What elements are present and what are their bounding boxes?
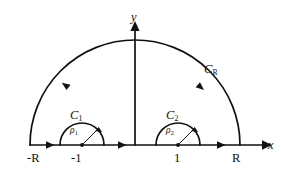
rho-label-right-subscript: 2 xyxy=(171,129,174,136)
rho-left-radius-line xyxy=(82,129,98,145)
curve-label-CR-subscript: R xyxy=(212,68,217,77)
rho-right-radius-line xyxy=(178,129,194,145)
rho-label-right-base: ρ xyxy=(166,125,171,135)
x-axis-label: x xyxy=(268,139,274,152)
contour-diagram: y x CR C1 C2 ρ1 ρ2 -R -1 1 R xyxy=(0,0,281,176)
tick-label-minus-1: -1 xyxy=(71,152,81,165)
large-arc-arrowhead-right xyxy=(196,82,204,90)
rho-label-right: ρ2 xyxy=(166,126,174,136)
contour-graphic xyxy=(0,0,281,176)
curve-label-C1: C1 xyxy=(70,109,82,122)
small-semicircle-right-path xyxy=(156,123,200,145)
large-arc-arrowhead-left xyxy=(62,83,71,90)
tick-label-plus-R: R xyxy=(232,152,240,165)
direction-arrow-left-segment xyxy=(46,141,55,149)
tick-label-plus-1: 1 xyxy=(174,152,180,165)
direction-arrow-middle-segment xyxy=(118,141,127,149)
tick-label-minus-R: -R xyxy=(27,152,40,165)
direction-arrow-right-segment xyxy=(217,141,226,149)
y-axis-label: y xyxy=(131,11,137,24)
rho-label-left: ρ1 xyxy=(70,126,78,136)
curve-label-CR: CR xyxy=(204,63,218,76)
curve-label-C2-subscript: 2 xyxy=(174,114,178,123)
rho-label-left-base: ρ xyxy=(70,125,75,135)
center-dot-right xyxy=(176,143,180,147)
center-dot-left xyxy=(80,143,84,147)
small-semicircle-left-path xyxy=(60,123,104,145)
curve-label-C1-subscript: 1 xyxy=(78,114,82,123)
curve-label-C2: C2 xyxy=(166,109,178,122)
rho-label-left-subscript: 1 xyxy=(75,129,78,136)
